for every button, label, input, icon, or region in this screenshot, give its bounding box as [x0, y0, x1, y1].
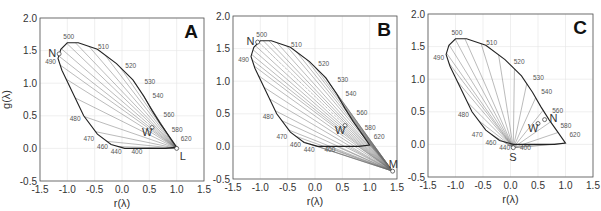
wavelength-label-540: 540: [541, 88, 552, 95]
point-label-w: W: [528, 122, 539, 134]
figure-three-panel-chromaticity: 4004404604704804905005105205305405605806…: [0, 0, 601, 211]
chart-canvas: 4004404604704804905005105205305405605806…: [0, 0, 601, 211]
x-tick-label: 1.0: [559, 180, 573, 191]
wavelength-label-400: 400: [131, 148, 142, 155]
panel-b: 4004404604704804905005105205305405605806…: [213, 11, 405, 208]
wavelength-label-470: 470: [472, 131, 483, 138]
x-tick-label: 0.5: [142, 184, 156, 195]
wavelength-label-540: 540: [153, 92, 164, 99]
x-tick-label: 0.5: [335, 182, 349, 193]
y-tick-label: 0.0: [23, 143, 37, 154]
marker-n: [543, 118, 547, 122]
marker-n: [57, 52, 61, 56]
point-label-n: N: [550, 112, 558, 124]
x-tick-label: 0.0: [115, 184, 129, 195]
point-label-s: S: [509, 151, 516, 163]
wavelength-label-470: 470: [276, 133, 287, 140]
y-tick-label: -0.5: [213, 174, 231, 185]
y-tick-label: 0.5: [216, 108, 230, 119]
x-tick-label: 1.5: [586, 180, 600, 191]
wavelength-label-460: 460: [290, 141, 301, 148]
x-tick-label: -0.5: [86, 184, 104, 195]
wavelength-label-440: 440: [304, 146, 315, 153]
wavelength-label-520: 520: [318, 60, 329, 67]
x-tick-label: -0.5: [279, 182, 297, 193]
x-tick-label: 1.0: [363, 182, 377, 193]
wavelength-label-460: 460: [97, 143, 108, 150]
y-tick-label: 2.0: [216, 11, 230, 22]
x-tick-label: 1.5: [197, 184, 211, 195]
marker-l: [175, 146, 179, 150]
wavelength-label-480: 480: [458, 111, 469, 118]
wavelength-label-500: 500: [256, 31, 267, 38]
y-tick-label: 0.5: [23, 110, 37, 121]
x-tick-label: 0.0: [504, 180, 518, 191]
wavelength-label-470: 470: [83, 135, 94, 142]
y-axis-label: g(λ): [0, 90, 12, 109]
marker-n: [256, 40, 260, 44]
wavelength-label-560: 560: [164, 111, 175, 118]
x-axis-label: r(λ): [502, 193, 519, 205]
wavelength-label-530: 530: [337, 76, 348, 83]
wavelength-label-490: 490: [238, 56, 249, 63]
y-tick-label: 1.5: [216, 43, 230, 54]
wavelength-label-510: 510: [486, 39, 497, 46]
y-tick-label: 2.0: [411, 9, 425, 20]
point-label-n: N: [247, 35, 255, 47]
y-tick-label: 0.0: [411, 139, 425, 150]
wavelength-label-490: 490: [433, 54, 444, 61]
wavelength-label-580: 580: [365, 124, 376, 131]
wavelength-label-400: 400: [520, 144, 531, 151]
y-tick-label: -0.5: [20, 176, 38, 187]
wavelength-label-520: 520: [514, 58, 525, 65]
point-label-w: W: [335, 124, 346, 136]
x-tick-label: -0.5: [474, 180, 492, 191]
wavelength-label-620: 620: [374, 133, 385, 140]
x-tick-label: 0.0: [308, 182, 322, 193]
x-axis-label: r(λ): [307, 195, 324, 207]
marker-s: [511, 146, 515, 150]
y-tick-label: 0.5: [411, 106, 425, 117]
panel-letter: C: [573, 17, 587, 38]
point-label-l: L: [180, 150, 186, 162]
wavelength-label-540: 540: [346, 90, 357, 97]
wavelength-label-580: 580: [172, 126, 183, 133]
panel-a: 4004404604704804905005105205305405605806…: [0, 13, 211, 210]
y-tick-label: 1.0: [411, 74, 425, 85]
panel-letter: A: [184, 21, 198, 42]
x-tick-label: -1.0: [59, 184, 77, 195]
x-tick-label: 1.0: [170, 184, 184, 195]
wavelength-label-510: 510: [291, 41, 302, 48]
wavelength-label-530: 530: [144, 78, 155, 85]
wavelength-label-620: 620: [570, 131, 581, 138]
y-tick-label: 2.0: [23, 13, 37, 24]
x-axis-label: r(λ): [114, 197, 131, 209]
wavelength-label-620: 620: [181, 135, 192, 142]
wavelength-label-500: 500: [63, 33, 74, 40]
wavelength-label-560: 560: [357, 109, 368, 116]
wavelength-label-510: 510: [98, 43, 109, 50]
wavelength-label-480: 480: [70, 115, 81, 122]
y-tick-label: 1.5: [23, 45, 37, 56]
wavelength-label-490: 490: [45, 58, 56, 65]
point-label-w: W: [142, 126, 153, 138]
wavelength-label-520: 520: [125, 62, 136, 69]
panel-c: 4004404604704804905005105205305405605806…: [408, 9, 601, 206]
x-tick-label: -1.0: [252, 182, 270, 193]
point-label-m: M: [389, 158, 398, 170]
y-tick-label: 0.0: [216, 141, 230, 152]
y-tick-label: 1.0: [23, 78, 37, 89]
y-tick-label: 1.0: [216, 76, 230, 87]
wavelength-label-530: 530: [533, 74, 544, 81]
wavelength-label-440: 440: [111, 148, 122, 155]
wavelength-label-460: 460: [486, 139, 497, 146]
point-label-n: N: [48, 47, 56, 59]
x-tick-label: -1.0: [447, 180, 465, 191]
x-tick-label: 1.5: [390, 182, 404, 193]
wavelength-label-500: 500: [452, 29, 463, 36]
y-tick-label: -0.5: [408, 172, 426, 183]
panel-letter: B: [377, 19, 391, 40]
x-tick-label: 0.5: [531, 180, 545, 191]
wavelength-label-480: 480: [263, 113, 274, 120]
wavelength-label-580: 580: [561, 122, 572, 129]
